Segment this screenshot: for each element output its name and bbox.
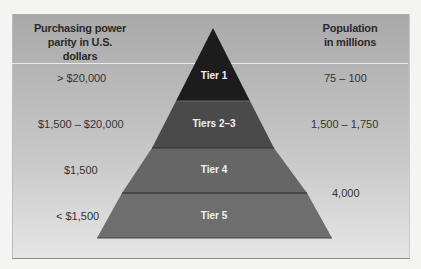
tier-1-segment (176, 28, 250, 101)
tier-4-5-population: 4,000 (332, 186, 360, 200)
tier-4-ppp: $1,500 (64, 163, 98, 177)
pyramid (0, 0, 421, 269)
tier-1-ppp: > $20,000 (57, 71, 106, 85)
tier-1-population: 75 – 100 (324, 71, 367, 85)
tier-2-3-ppp: $1,500 – $20,000 (38, 117, 124, 131)
tier-2-3-label: Tiers 2–3 (164, 118, 264, 130)
tier-5-ppp: < $1,500 (56, 209, 99, 223)
tier-5-label: Tier 5 (164, 210, 264, 222)
tier-1-label: Tier 1 (164, 70, 264, 82)
tier-4-label: Tier 4 (164, 164, 264, 176)
tier-2-3-population: 1,500 – 1,750 (311, 117, 378, 131)
